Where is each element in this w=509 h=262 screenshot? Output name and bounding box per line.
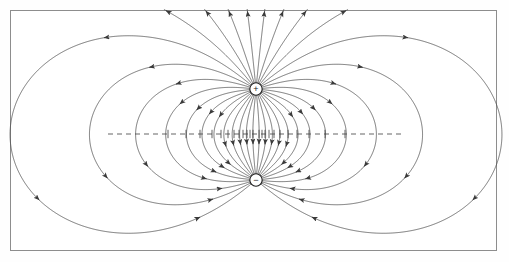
- field-arrow: [473, 197, 476, 200]
- field-arrow: [196, 217, 200, 219]
- field-arrow: [233, 141, 234, 145]
- charge-group: +−: [250, 83, 262, 186]
- field-arrow: [176, 83, 180, 84]
- field-arrow: [209, 111, 212, 114]
- field-arrow: [212, 170, 216, 172]
- field-arrow: [247, 11, 248, 15]
- field-line: [262, 79, 377, 189]
- positive-charge-label: +: [253, 84, 258, 94]
- field-line: [205, 9, 253, 83]
- field-arrow: [288, 166, 292, 168]
- field-arrow: [296, 170, 300, 172]
- field-line: [259, 9, 307, 83]
- field-arrow: [219, 113, 221, 116]
- field-arrow: [221, 166, 225, 168]
- equipotential-group: [254, 86, 259, 183]
- dipole-field-diagram: +−: [0, 0, 509, 262]
- field-line: [232, 94, 252, 175]
- field-arrow: [282, 162, 285, 165]
- field-arrow: [36, 197, 39, 200]
- field-arrow: [281, 11, 283, 15]
- field-arrow: [218, 188, 222, 189]
- field-line: [262, 64, 423, 205]
- field-arrow: [332, 83, 336, 84]
- negative-charge-label: −: [253, 175, 258, 185]
- field-arrow: [303, 11, 306, 14]
- field-line-group: [10, 9, 502, 233]
- field-arrow: [364, 163, 367, 166]
- field-arrow: [278, 141, 279, 145]
- field-line: [260, 10, 348, 84]
- field-line: [257, 9, 265, 82]
- positive-charge: +: [250, 83, 262, 95]
- field-arrow: [197, 107, 200, 110]
- field-arrow: [271, 141, 272, 145]
- field-arrow: [405, 175, 408, 178]
- field-arrow: [342, 11, 346, 13]
- field-arrow: [312, 217, 316, 219]
- field-arrow: [240, 141, 241, 145]
- field-line: [164, 10, 252, 84]
- field-arrow: [149, 66, 153, 67]
- field-arrow: [145, 163, 148, 166]
- field-arrow: [300, 111, 303, 114]
- field-arrow: [329, 101, 332, 104]
- field-arrow: [312, 107, 315, 110]
- field-line: [260, 94, 280, 175]
- field-arrow: [206, 11, 209, 14]
- figure-page: +−: [0, 0, 509, 262]
- field-arrow: [359, 66, 363, 67]
- field-arrow: [104, 37, 108, 38]
- field-arrow: [166, 11, 170, 13]
- field-arrow: [264, 11, 265, 15]
- field-line: [89, 64, 250, 205]
- field-arrow: [105, 175, 108, 178]
- field-line: [10, 36, 251, 234]
- field-arrow: [290, 188, 294, 189]
- field-arrow: [227, 162, 230, 165]
- field-arrow: [180, 101, 183, 104]
- field-line: [136, 79, 251, 189]
- negative-charge: −: [250, 174, 262, 186]
- field-line: [247, 9, 255, 82]
- field-arrow: [290, 113, 292, 116]
- field-arrow: [404, 37, 408, 38]
- field-arrow: [229, 11, 231, 15]
